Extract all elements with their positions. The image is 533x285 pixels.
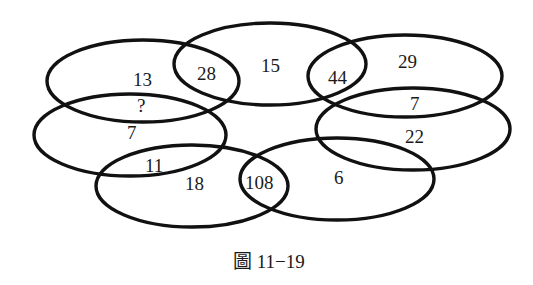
figure-caption: 圖 11−19: [233, 251, 305, 272]
label-overlap-top-left-top-center: 28: [197, 63, 216, 84]
label-overlap-middle-left-bottom-left: 11: [145, 155, 163, 176]
label-overlap-top-right-middle-right: 7: [410, 93, 420, 114]
label-bottom-left-only: 18: [185, 173, 204, 194]
label-top-center-only: 15: [261, 55, 280, 76]
label-middle-right-only: 22: [405, 126, 424, 147]
label-overlap-top-center-top-right: 44: [328, 67, 348, 88]
label-bottom-right-only: 6: [334, 167, 344, 188]
label-overlap-bottom-left-bottom-right: 108: [245, 172, 274, 193]
label-top-right-only: 29: [398, 51, 417, 72]
label-top-left-only: 13: [133, 69, 152, 90]
label-unknown-question-mark: ?: [137, 95, 145, 116]
venn-ellipse-puzzle-diagram: 13 28 15 44 29 ? 7 7 22 11 18 108 6 圖 11…: [0, 0, 533, 285]
label-middle-left-only: 7: [127, 122, 137, 143]
